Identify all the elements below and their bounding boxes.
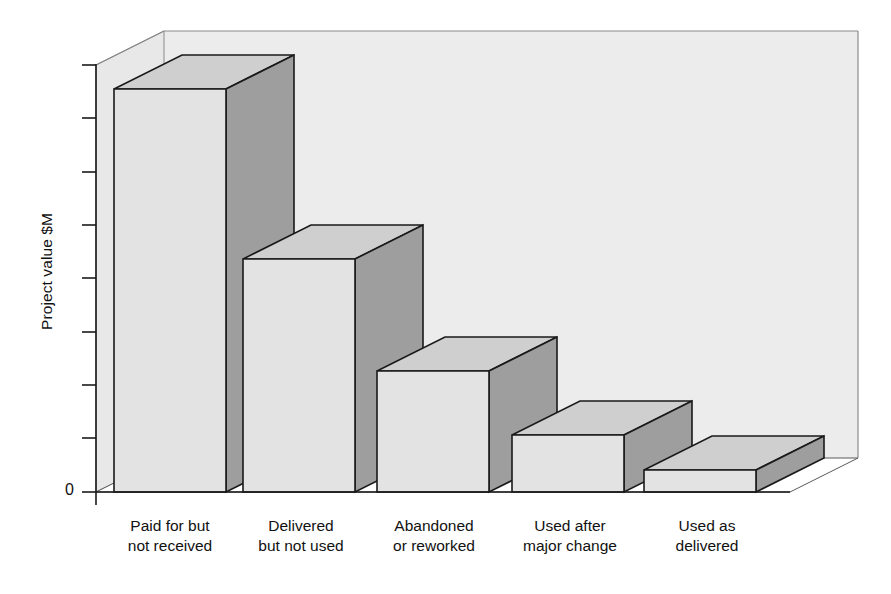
x-axis-label-abandoned-or-reworked: Abandoned or reworked	[364, 516, 504, 556]
bar-chart-3d	[0, 0, 891, 594]
label-line-2: delivered	[637, 536, 777, 556]
chart-container: Project value $M 0 Paid for but not rece…	[0, 0, 891, 594]
label-line-1: Paid for but	[100, 516, 240, 536]
bar-front-face	[512, 435, 624, 492]
x-axis-label-used-as-delivered: Used as delivered	[637, 516, 777, 556]
x-axis-category-labels: Paid for but not received Delivered but …	[0, 516, 891, 578]
label-line-1: Abandoned	[364, 516, 504, 536]
bar-front-face	[377, 371, 489, 492]
y-axis-title: Project value $M	[38, 213, 56, 330]
x-axis-label-used-after-major-change: Used after major change	[497, 516, 643, 556]
x-axis-label-paid-for-but-not-received: Paid for but not received	[100, 516, 240, 556]
x-axis-label-delivered-but-not-used: Delivered but not used	[231, 516, 371, 556]
label-line-1: Used as	[637, 516, 777, 536]
y-axis	[82, 64, 96, 505]
label-line-1: Used after	[497, 516, 643, 536]
label-line-2: but not used	[231, 536, 371, 556]
label-line-1: Delivered	[231, 516, 371, 536]
y-tick-label-zero: 0	[42, 481, 74, 499]
label-line-2: not received	[100, 536, 240, 556]
bar-front-face	[114, 89, 226, 492]
label-line-2: major change	[497, 536, 643, 556]
bar-front-face	[243, 259, 355, 492]
y-axis-ticks	[82, 65, 96, 492]
label-line-2: or reworked	[364, 536, 504, 556]
bar-front-face	[644, 470, 756, 492]
